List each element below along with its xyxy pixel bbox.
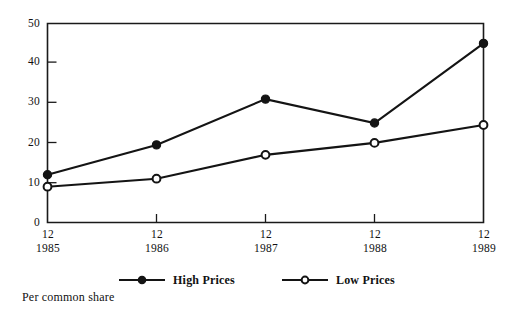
x-tick-label: 12 1989 [457, 228, 511, 255]
data-point-open-circle [480, 121, 488, 129]
data-point-filled-circle [370, 119, 378, 127]
x-tick-month: 12 [239, 228, 293, 242]
y-axis-ticks [48, 62, 57, 183]
y-tick-label: 30 [12, 96, 40, 108]
filled-circle-marker-icon [118, 273, 166, 287]
chart-canvas [0, 0, 513, 260]
y-tick-label: 0 [12, 217, 40, 229]
x-tick-year: 1988 [348, 242, 402, 256]
y-tick-label: 50 [12, 18, 40, 30]
x-tick-month: 12 [21, 228, 75, 242]
legend-label-low-prices: Low Prices [336, 273, 395, 288]
plot-frame [48, 24, 484, 223]
data-point-open-circle [371, 139, 379, 147]
legend-item-high-prices: High Prices [118, 273, 235, 288]
x-tick-label: 12 1986 [130, 228, 184, 255]
open-circle-marker-icon [281, 273, 329, 287]
plot-area: 50 40 30 20 10 0 12 1985 12 1986 12 1987… [0, 0, 513, 260]
x-tick-month: 12 [130, 228, 184, 242]
x-tick-year: 1985 [21, 242, 75, 256]
legend-item-low-prices: Low Prices [281, 273, 395, 288]
x-tick-year: 1987 [239, 242, 293, 256]
data-point-open-circle [262, 151, 270, 159]
chart-legend: High Prices Low Prices [0, 268, 513, 292]
x-tick-month: 12 [348, 228, 402, 242]
x-tick-year: 1989 [457, 242, 511, 256]
data-point-filled-circle [479, 39, 487, 47]
y-tick-label: 20 [12, 137, 40, 149]
data-point-filled-circle [261, 95, 269, 103]
data-point-filled-circle [152, 141, 160, 149]
x-tick-year: 1986 [130, 242, 184, 256]
price-range-line-chart: 50 40 30 20 10 0 12 1985 12 1986 12 1987… [0, 0, 513, 316]
y-tick-label: 40 [12, 56, 40, 68]
data-point-open-circle [153, 175, 161, 183]
x-axis-ticks [157, 214, 375, 223]
chart-caption: Per common share [22, 290, 115, 305]
x-tick-month: 12 [457, 228, 511, 242]
legend-label-high-prices: High Prices [173, 273, 235, 288]
data-point-open-circle [44, 183, 52, 191]
data-point-filled-circle [43, 171, 51, 179]
series-layer [43, 39, 487, 190]
x-tick-label: 12 1987 [239, 228, 293, 255]
y-tick-label: 10 [12, 177, 40, 189]
x-tick-label: 12 1985 [21, 228, 75, 255]
x-tick-label: 12 1988 [348, 228, 402, 255]
series-low-prices [44, 121, 488, 190]
